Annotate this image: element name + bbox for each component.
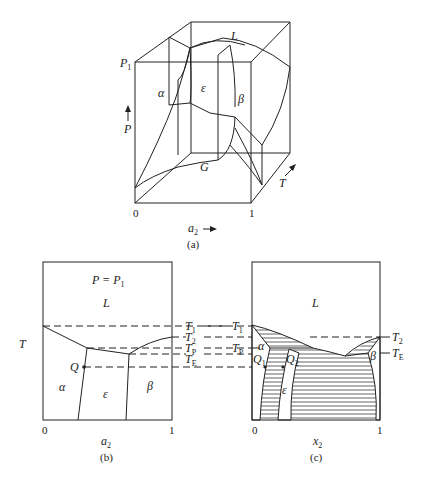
labels-b: P = P1 L T Q α ε β T1 T2 TP TE 0 1 a2 (b…	[19, 273, 197, 464]
title-b: P = P1	[91, 273, 125, 289]
caption-b: (b)	[100, 451, 113, 464]
label-x2: x2	[312, 434, 322, 450]
label-G: G	[200, 160, 209, 174]
label-epsilon: ε	[282, 383, 287, 397]
label-a2: a2	[188, 221, 198, 237]
tick-1: 1	[169, 424, 175, 436]
label-T-axis: T	[19, 337, 27, 351]
label-T: T	[279, 176, 287, 190]
label-L: L	[311, 296, 319, 310]
label-epsilon: ε	[103, 387, 108, 401]
arrow-right-icon	[203, 226, 217, 232]
label-Q: Q	[70, 360, 79, 374]
phase-diagram-figure: L α ε β G P1 P T 0 1 a2 (a)	[0, 0, 421, 487]
label-alpha: α	[258, 339, 265, 353]
tick-0: 0	[133, 207, 139, 219]
label-alpha: α	[59, 380, 66, 394]
label-beta: β	[369, 349, 376, 363]
label-P1: P1	[119, 56, 131, 72]
point-Q	[82, 365, 86, 369]
label-beta: β	[237, 92, 244, 106]
phase-diagram-b	[43, 262, 252, 420]
phase-diagram-c	[252, 262, 390, 420]
label-alpha: α	[158, 86, 165, 100]
label-Tp: TP	[232, 341, 244, 357]
cube-diagram-a	[135, 22, 290, 203]
label-P: P	[123, 122, 132, 136]
label-beta: β	[146, 379, 153, 393]
label-T1: T1	[232, 319, 243, 335]
label-L: L	[230, 29, 238, 43]
tick-0: 0	[252, 424, 258, 436]
label-TE: TE	[392, 346, 404, 362]
caption-c: (c)	[310, 451, 323, 464]
label-a2: a2	[101, 434, 111, 450]
point-Q2	[281, 365, 284, 368]
label-L: L	[102, 296, 110, 310]
arrow-up-icon	[125, 105, 131, 121]
label-epsilon: ε	[201, 81, 206, 95]
tick-1: 1	[377, 424, 383, 436]
tick-1: 1	[249, 207, 255, 219]
tick-0: 0	[42, 424, 48, 436]
caption-a: (a)	[187, 238, 200, 251]
label-T2: T2	[392, 330, 403, 346]
arrow-diag-icon	[285, 164, 296, 176]
